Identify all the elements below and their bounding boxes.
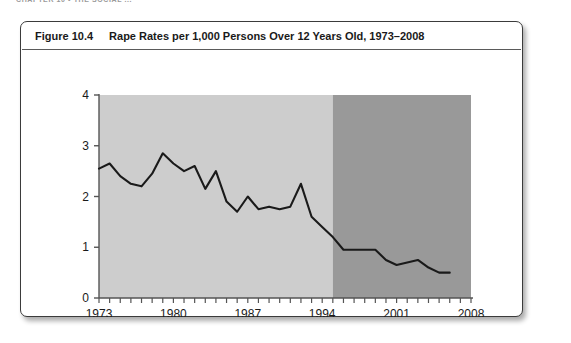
- figure-box: Figure 10.4 Rape Rates per 1,000 Persons…: [20, 21, 523, 317]
- x-tick-label: 1987: [234, 307, 261, 317]
- y-axis-ticks: [94, 95, 99, 298]
- figure-number-label: Figure 10.4: [35, 30, 93, 42]
- band-light-region: [99, 95, 333, 298]
- y-axis-tick-labels: 01234: [82, 88, 89, 305]
- x-axis-tick-labels: 197319801987199420012008: [86, 307, 485, 317]
- x-tick-label: 2008: [458, 307, 485, 317]
- x-tick-label: 1994: [309, 307, 336, 317]
- x-tick-label: 1980: [160, 307, 187, 317]
- y-tick-label: 3: [82, 139, 89, 153]
- plot-bands: [99, 95, 471, 298]
- y-tick-label: 0: [82, 291, 89, 305]
- band-dark-region: [333, 95, 471, 298]
- line-chart: 01234 197319801987199420012008: [21, 50, 524, 317]
- figure-title-bar: Figure 10.4 Rape Rates per 1,000 Persons…: [21, 22, 522, 49]
- x-tick-label: 2001: [383, 307, 410, 317]
- y-tick-label: 4: [82, 88, 89, 102]
- running-head: CHAPTER 10 • THE SOCIAL ...: [16, 0, 132, 3]
- x-axis-minor-ticks: [99, 298, 471, 303]
- y-tick-label: 2: [82, 190, 89, 204]
- chart-area: 01234 197319801987199420012008: [21, 50, 522, 316]
- figure-caption: Rape Rates per 1,000 Persons Over 12 Yea…: [109, 30, 424, 42]
- y-tick-label: 1: [82, 240, 89, 254]
- x-tick-label: 1973: [86, 307, 113, 317]
